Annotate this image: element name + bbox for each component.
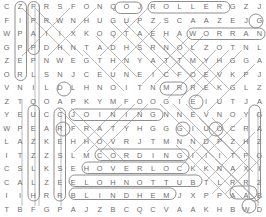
grid-cell[interactable]: G (160, 122, 173, 136)
grid-cell[interactable]: K (213, 81, 226, 95)
grid-cell[interactable]: H (160, 27, 173, 41)
grid-cell[interactable]: G (239, 54, 252, 68)
grid-cell[interactable]: I (27, 81, 40, 95)
grid-cell[interactable]: S (53, 149, 66, 163)
grid-cell[interactable]: T (106, 122, 119, 136)
grid-cell[interactable]: K (200, 162, 213, 176)
grid-cell[interactable]: Z (0, 95, 13, 109)
grid-cell[interactable]: Z (213, 14, 226, 28)
grid-cell[interactable]: C (93, 149, 106, 163)
grid-cell[interactable]: O (186, 68, 199, 82)
grid-cell[interactable]: C (0, 0, 13, 14)
grid-cell[interactable]: C (146, 203, 159, 217)
grid-cell[interactable]: M (106, 95, 119, 109)
grid-cell[interactable]: E (13, 54, 26, 68)
grid-cell[interactable]: N (120, 68, 133, 82)
grid-cell[interactable]: T (200, 176, 213, 190)
grid-cell[interactable]: U (213, 95, 226, 109)
grid-cell[interactable]: U (173, 176, 186, 190)
grid-cell[interactable]: A (253, 122, 266, 136)
grid-cell[interactable]: U (27, 108, 40, 122)
grid-cell[interactable]: I (200, 149, 213, 163)
grid-cell[interactable]: D (53, 81, 66, 95)
grid-cell[interactable]: O (106, 81, 119, 95)
grid-cell[interactable]: O (93, 135, 106, 149)
grid-cell[interactable]: Y (0, 108, 13, 122)
grid-cell[interactable]: O (80, 108, 93, 122)
grid-cell[interactable]: T (160, 54, 173, 68)
grid-cell[interactable]: T (146, 176, 159, 190)
grid-cell[interactable]: G (0, 41, 13, 55)
grid-cell[interactable]: R (146, 41, 159, 55)
grid-cell[interactable]: T (93, 54, 106, 68)
grid-cell[interactable]: W (0, 27, 13, 41)
grid-cell[interactable]: O (120, 0, 133, 14)
grid-cell[interactable]: A (67, 203, 80, 217)
grid-cell[interactable]: M (80, 149, 93, 163)
grid-cell[interactable]: O (93, 176, 106, 190)
grid-cell[interactable]: H (213, 203, 226, 217)
grid-cell[interactable]: E (53, 176, 66, 190)
grid-cell[interactable]: I (93, 108, 106, 122)
grid-cell[interactable]: D (120, 189, 133, 203)
grid-cell[interactable]: C (226, 122, 239, 136)
grid-cell[interactable]: V (106, 135, 119, 149)
grid-cell[interactable]: R (80, 122, 93, 136)
grid-cell[interactable]: B (67, 189, 80, 203)
grid-cell[interactable]: O (146, 95, 159, 109)
grid-cell[interactable]: C (0, 176, 13, 190)
grid-cell[interactable]: O (173, 41, 186, 55)
grid-cell[interactable]: Q (27, 95, 40, 109)
grid-cell[interactable]: P (213, 189, 226, 203)
grid-cell[interactable]: F (27, 203, 40, 217)
grid-cell[interactable]: P (27, 41, 40, 55)
grid-cell[interactable]: I (253, 162, 266, 176)
grid-cell[interactable]: L (146, 162, 159, 176)
grid-cell[interactable]: C (40, 108, 53, 122)
grid-cell[interactable]: G (80, 54, 93, 68)
grid-cell[interactable]: F (27, 0, 40, 14)
grid-cell[interactable]: J (253, 0, 266, 14)
grid-cell[interactable]: R (53, 122, 66, 136)
grid-cell[interactable]: N (67, 14, 80, 28)
grid-cell[interactable]: W (53, 14, 66, 28)
grid-cell[interactable]: A (173, 203, 186, 217)
grid-cell[interactable]: P (200, 189, 213, 203)
grid-cell[interactable]: T (160, 176, 173, 190)
grid-cell[interactable]: A (27, 27, 40, 41)
grid-cell[interactable]: E (67, 162, 80, 176)
grid-cell[interactable]: T (0, 203, 13, 217)
grid-cell[interactable]: N (53, 68, 66, 82)
grid-cell[interactable]: H (106, 176, 119, 190)
grid-cell[interactable]: N (213, 162, 226, 176)
grid-cell[interactable]: O (0, 68, 13, 82)
grid-cell[interactable]: I (13, 189, 26, 203)
grid-cell[interactable]: A (186, 14, 199, 28)
grid-cell[interactable]: B (186, 176, 199, 190)
grid-cell[interactable]: Z (93, 203, 106, 217)
grid-cell[interactable]: C (0, 162, 13, 176)
grid-cell[interactable]: H (67, 135, 80, 149)
grid-cell[interactable]: B (13, 203, 26, 217)
grid-cell[interactable]: K (226, 68, 239, 82)
grid-cell[interactable]: V (200, 108, 213, 122)
grid-cell[interactable]: Z (253, 135, 266, 149)
grid-cell[interactable]: O (133, 176, 146, 190)
grid-cell[interactable]: N (213, 108, 226, 122)
grid-cell[interactable]: H (53, 41, 66, 55)
grid-cell[interactable]: G (173, 149, 186, 163)
grid-cell[interactable]: O (213, 41, 226, 55)
grid-cell[interactable]: A (13, 135, 26, 149)
grid-cell[interactable]: R (213, 0, 226, 14)
grid-cell[interactable]: R (53, 189, 66, 203)
grid-cell[interactable]: O (213, 122, 226, 136)
grid-cell[interactable]: K (80, 27, 93, 41)
grid-cell[interactable]: G (40, 203, 53, 217)
grid-cell[interactable]: L (80, 176, 93, 190)
grid-cell[interactable]: J (253, 68, 266, 82)
grid-cell[interactable]: O (40, 95, 53, 109)
grid-cell[interactable]: L (67, 149, 80, 163)
grid-cell[interactable]: H (80, 81, 93, 95)
grid-cell[interactable]: H (133, 189, 146, 203)
grid-cell[interactable]: G (253, 108, 266, 122)
